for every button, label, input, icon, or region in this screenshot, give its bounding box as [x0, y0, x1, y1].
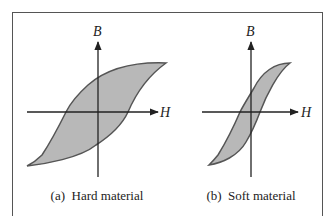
caption-soft-material: (b) Soft material: [206, 188, 296, 203]
h-axis-label-a: H: [159, 105, 171, 120]
panel-soft-material: B H (b) Soft material: [202, 24, 312, 203]
hysteresis-loop-soft: [209, 63, 290, 165]
panel-hard-material: B H (a) Hard material: [27, 24, 171, 203]
b-axis-label-b: B: [246, 24, 255, 39]
hysteresis-figure: B H (a) Hard material B H (b) Soft mater…: [0, 0, 328, 216]
hysteresis-loop-hard: [27, 63, 166, 166]
h-axis-label-b: H: [300, 105, 312, 120]
caption-hard-material: (a) Hard material: [51, 188, 144, 203]
b-axis-label-a: B: [93, 24, 102, 39]
